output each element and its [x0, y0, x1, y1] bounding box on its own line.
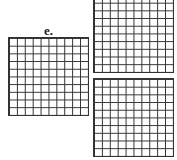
top-right-grid — [93, 0, 174, 73]
left-grid — [8, 37, 89, 116]
bottom-right-grid — [93, 78, 174, 157]
figure-label: e. — [44, 24, 53, 37]
